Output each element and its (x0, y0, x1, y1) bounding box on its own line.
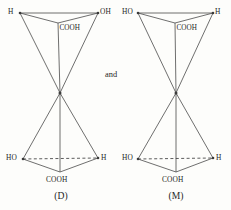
right-bottom-left-atom-label: HO (122, 154, 133, 161)
left-bottom-left-atom-label: HO (6, 154, 17, 161)
right-structure-caption: (M) (163, 191, 189, 201)
right-top-center-atom-label: COOH (176, 25, 197, 32)
right-top-left-atom-label: HO (122, 8, 133, 15)
left-top-center-atom-label: COOH (59, 25, 80, 32)
right-bottom-center-atom-label: COOH (162, 176, 183, 183)
left-structure-caption: (D) (48, 191, 74, 201)
left-molecule-bonds (19, 12, 100, 172)
right-molecule-bonds (137, 12, 215, 172)
left-bottom-center-atom-label: COOH (46, 176, 67, 183)
left-top-left-atom-label: H (8, 8, 13, 15)
left-bottom-right-atom-label: H (101, 154, 106, 161)
stereochemistry-figure: H OH COOH HO H COOH (D) and HO H COOH HO… (0, 0, 231, 210)
left-top-right-atom-label: OH (100, 8, 111, 15)
conjunction-and: and (105, 71, 117, 79)
right-top-right-atom-label: H (215, 8, 220, 15)
right-bottom-right-atom-label: H (216, 154, 221, 161)
